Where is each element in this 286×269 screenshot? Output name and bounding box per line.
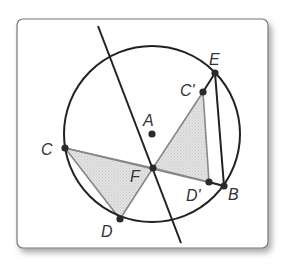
point-e-icon — [211, 69, 218, 76]
diagram-frame — [17, 19, 268, 248]
label-b: B — [228, 186, 239, 203]
point-b-icon — [220, 182, 227, 189]
point-a-icon — [148, 130, 155, 137]
point-c-icon — [61, 144, 68, 151]
point-f-icon — [149, 164, 156, 171]
label-c: C — [41, 141, 53, 158]
point-c-prime-icon — [199, 88, 206, 95]
label-c-prime: C' — [180, 82, 196, 99]
label-d-prime: D' — [186, 187, 202, 204]
label-a: A — [142, 112, 154, 129]
point-d-prime-icon — [205, 178, 212, 185]
label-f: F — [130, 168, 141, 185]
label-e: E — [209, 51, 220, 68]
label-d: D — [101, 223, 113, 240]
geometry-diagram: ACDFEC'D'B — [0, 0, 286, 269]
point-d-icon — [116, 215, 123, 222]
